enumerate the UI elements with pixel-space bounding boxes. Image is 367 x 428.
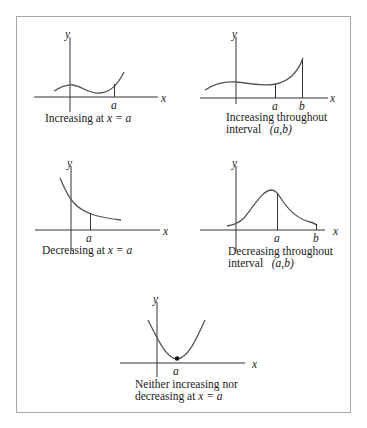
y-axis-label: y (67, 157, 72, 169)
caption-line2: interval (a,b) (228, 257, 294, 269)
panel-neither-at-a (120, 302, 245, 377)
a-label: a (274, 232, 280, 244)
y-axis-label: y (65, 28, 70, 40)
x-axis-label: x (161, 92, 166, 104)
caption-line2: decreasing at x = a (135, 390, 223, 402)
a-label: a (86, 232, 92, 244)
caption: Decreasing at x = a (42, 244, 132, 256)
caption: Increasing at x = a (45, 112, 131, 124)
y-axis-label: y (232, 28, 237, 40)
curve (205, 58, 303, 90)
panel-decreasing-at-a (35, 166, 160, 251)
x-axis-label: x (252, 358, 257, 370)
caption-line1: Increasing throughout (226, 111, 327, 123)
panel-increasing-throughout-interval (200, 37, 328, 104)
b-label: b (313, 232, 319, 244)
a-label: a (173, 365, 179, 377)
point-at-a (175, 356, 179, 360)
curve (227, 190, 317, 226)
panel-decreasing-throughout-interval (200, 166, 325, 251)
x-axis-label: x (330, 92, 335, 104)
curve (54, 72, 124, 93)
x-axis-label: x (333, 225, 338, 237)
x-axis-label: x (163, 225, 168, 237)
a-label: a (111, 99, 117, 111)
y-axis-label: y (232, 157, 237, 169)
caption-line1: Neither increasing nor (135, 378, 238, 390)
caption-line1: Decreasing throughout (228, 245, 333, 257)
panel-increasing-at-a (34, 37, 158, 112)
figure-diagrams (0, 0, 367, 428)
y-axis-label: y (153, 293, 158, 305)
caption-line2: interval (a,b) (226, 123, 292, 135)
